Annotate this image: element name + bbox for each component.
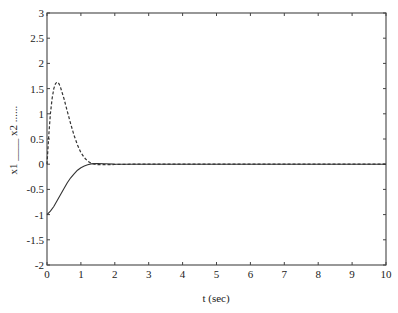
series-x2 <box>47 82 386 165</box>
y-tick-label: 2.5 <box>30 32 44 44</box>
y-tick-label: -1 <box>35 209 44 221</box>
x-tick-label: 0 <box>44 268 50 280</box>
y-tick-label: -0.5 <box>27 183 45 195</box>
x-tick-label: 3 <box>146 268 152 280</box>
x-tick-label: 8 <box>315 268 321 280</box>
x-tick-label: 4 <box>180 268 186 280</box>
x-tick-label: 1 <box>78 268 84 280</box>
y-tick-label: 1 <box>39 108 45 120</box>
plot-frame <box>47 13 386 265</box>
x-tick-label: 5 <box>214 268 220 280</box>
x-tick-label: 7 <box>282 268 288 280</box>
x-tick-label: 9 <box>349 268 355 280</box>
line-chart: 012345678910 -2-1.5-1-0.500.511.522.53 t… <box>0 0 398 313</box>
y-tick-label: 0 <box>39 158 45 170</box>
y-tick-label: 2 <box>39 57 45 69</box>
y-tick-label: -1.5 <box>27 234 45 246</box>
x-axis-label: t (sec) <box>202 292 230 305</box>
series-layer <box>47 82 386 215</box>
y-tick-label: 3 <box>39 7 45 19</box>
x-axis-ticks: 012345678910 <box>44 13 392 280</box>
x-tick-label: 10 <box>381 268 393 280</box>
x-tick-label: 6 <box>248 268 254 280</box>
x-tick-label: 2 <box>112 268 118 280</box>
y-tick-label: 1.5 <box>30 83 44 95</box>
plot-border <box>47 13 386 265</box>
series-x1 <box>47 164 386 215</box>
y-axis-ticks: -2-1.5-1-0.500.511.522.53 <box>27 7 386 271</box>
y-axis-label: x1 ____ x2 ...... <box>7 105 19 174</box>
y-tick-label: -2 <box>35 259 44 271</box>
y-tick-label: 0.5 <box>30 133 44 145</box>
